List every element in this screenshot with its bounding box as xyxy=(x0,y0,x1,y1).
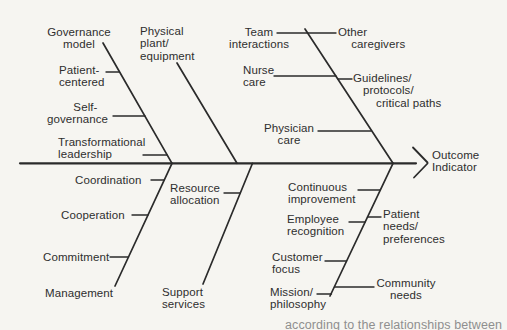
label-continuous-improvement: Continuous improvement xyxy=(288,181,356,206)
label-coordination: Coordination xyxy=(75,174,141,187)
bone-physical-plant xyxy=(177,63,237,163)
label-management: Management xyxy=(45,287,113,300)
label-physical-plant-equipment: Physical plant/ equipment xyxy=(140,25,195,63)
fishbone-diagram: Governance model Patient- centered Self-… xyxy=(0,0,507,330)
label-mission-philosophy: Mission/ philosophy xyxy=(270,286,326,311)
arrowhead-top xyxy=(413,148,428,163)
label-other-caregivers: Other caregivers xyxy=(338,26,405,51)
label-self-governance: Self- governance xyxy=(47,101,108,126)
arrowhead-bottom xyxy=(414,164,428,178)
label-employee-recognition: Employee recognition xyxy=(287,213,344,238)
label-outcome-indicator: Outcome Indicator xyxy=(432,149,479,174)
label-resource-allocation: Resource allocation xyxy=(170,182,220,207)
caption-fragment: according to the relationships between xyxy=(285,319,502,330)
label-community-needs: Community needs xyxy=(374,277,438,302)
label-patient-centered: Patient- centered xyxy=(59,64,105,89)
label-cooperation: Cooperation xyxy=(61,209,125,222)
label-nurse-care: Nurse care xyxy=(243,64,274,89)
label-governance-model: Governance model xyxy=(41,26,117,51)
label-customer-focus: Customer focus xyxy=(272,251,323,276)
label-physician-care: Physician care xyxy=(258,122,320,147)
label-guidelines-protocols: Guidelines/ protocols/ critical paths xyxy=(353,72,441,110)
label-team-interactions: Team interactions xyxy=(223,26,295,51)
label-transformational-leadership: Transformational leadership xyxy=(58,136,145,161)
label-support-services: Support services xyxy=(162,286,205,311)
label-patient-needs-preferences: Patient needs/ preferences xyxy=(383,208,445,246)
label-commitment: Commitment xyxy=(43,251,109,264)
